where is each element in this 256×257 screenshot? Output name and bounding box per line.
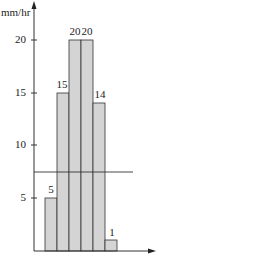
bar-6 (105, 240, 117, 251)
y-axis-arrow-icon (32, 1, 37, 9)
bars (45, 40, 117, 251)
bar-label-3: 20 (69, 25, 81, 37)
bar-label-6: 1 (106, 226, 118, 238)
bar-label-4: 20 (81, 25, 93, 37)
bar-label-1: 5 (45, 183, 57, 195)
bar-3 (69, 40, 81, 251)
bar-label-5: 14 (94, 88, 106, 100)
bar-5 (93, 103, 105, 251)
bar-label-2: 15 (56, 78, 68, 90)
x-axis-arrow-icon (148, 249, 156, 254)
bar-4 (81, 40, 93, 251)
chart-canvas (0, 0, 256, 257)
bar-1 (45, 198, 57, 251)
